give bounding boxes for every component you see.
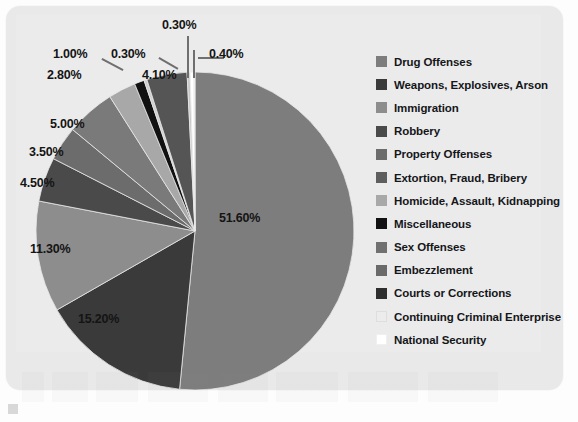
value-label-robbery: 4.50% — [20, 176, 54, 190]
legend-item[interactable]: Extortion, Fraud, Bribery — [376, 166, 563, 189]
background-artifact-swatch — [8, 404, 18, 414]
legend-item-label: Robbery — [394, 125, 440, 137]
legend-item-label: Weapons, Explosives, Arson — [394, 79, 548, 91]
background-artifact-strip — [18, 372, 548, 402]
value-label-immigration: 11.30% — [30, 242, 71, 256]
value-label-weapons: 15.20% — [78, 312, 119, 326]
legend-item-label: Property Offenses — [394, 148, 492, 160]
legend-swatch-icon — [376, 56, 387, 67]
legend-item-label: Immigration — [394, 102, 459, 114]
legend-item[interactable]: Robbery — [376, 120, 563, 143]
legend-item-label: Extortion, Fraud, Bribery — [394, 172, 527, 184]
value-label-extortion: 5.00% — [50, 117, 84, 131]
legend-swatch-icon — [376, 195, 387, 206]
legend-item-label: Homicide, Assault, Kidnapping — [394, 195, 560, 207]
legend-item[interactable]: Miscellaneous — [376, 212, 563, 235]
value-label-sex-offenses: 0.30% — [111, 47, 145, 61]
legend-swatch-icon — [376, 218, 387, 229]
legend-swatch-icon — [376, 242, 387, 253]
value-label-misc: 1.00% — [53, 47, 87, 61]
legend-swatch-icon — [376, 172, 387, 183]
legend-item-label: Embezzlement — [394, 264, 473, 276]
legend-item[interactable]: Homicide, Assault, Kidnapping — [376, 189, 563, 212]
chart-card: 0.30% 1.00% 0.30% 0.40% 2.80% 4.10% 5.00… — [6, 6, 563, 390]
legend-item[interactable]: National Security — [376, 328, 563, 351]
leader-line-courts — [187, 36, 189, 78]
legend-item-label: Drug Offenses — [394, 56, 472, 68]
legend-item[interactable]: Weapons, Explosives, Arson — [376, 73, 563, 96]
value-label-embezzlement: 4.10% — [142, 68, 176, 82]
value-label-cce: 0.40% — [209, 47, 243, 61]
value-label-courts: 0.30% — [162, 18, 196, 32]
value-label-homicide: 2.80% — [47, 68, 81, 82]
legend-item-label: Miscellaneous — [394, 218, 471, 230]
legend-swatch-icon — [376, 334, 387, 345]
legend-item-label: Courts or Corrections — [394, 287, 511, 299]
pie-slice[interactable] — [180, 72, 354, 390]
legend-item[interactable]: Courts or Corrections — [376, 282, 563, 305]
legend-item[interactable]: Sex Offenses — [376, 236, 563, 259]
value-label-property: 3.50% — [29, 145, 63, 159]
leader-line-national-security — [193, 50, 195, 78]
page-root: 0.30% 1.00% 0.30% 0.40% 2.80% 4.10% 5.00… — [0, 0, 578, 422]
legend-swatch-icon — [376, 311, 387, 322]
legend-swatch-icon — [376, 126, 387, 137]
value-label-drug: 51.60% — [219, 211, 260, 225]
legend: Drug OffensesWeapons, Explosives, ArsonI… — [376, 50, 563, 351]
legend-swatch-icon — [376, 102, 387, 113]
legend-swatch-icon — [376, 265, 387, 276]
legend-swatch-icon — [376, 149, 387, 160]
legend-item[interactable]: Embezzlement — [376, 259, 563, 282]
legend-item[interactable]: Drug Offenses — [376, 50, 563, 73]
legend-swatch-icon — [376, 79, 387, 90]
legend-item[interactable]: Continuing Criminal Enterprise — [376, 305, 563, 328]
legend-item-label: Sex Offenses — [394, 241, 466, 253]
legend-swatch-icon — [376, 288, 387, 299]
legend-item-label: Continuing Criminal Enterprise — [394, 311, 561, 323]
legend-item[interactable]: Immigration — [376, 96, 563, 119]
legend-item[interactable]: Property Offenses — [376, 143, 563, 166]
legend-item-label: National Security — [394, 334, 486, 346]
